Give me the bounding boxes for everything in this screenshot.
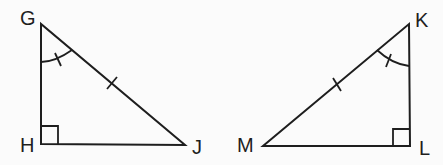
right-angle-marker-l <box>393 129 410 146</box>
vertex-label-l: L <box>419 138 430 158</box>
side-tick-mk <box>333 78 341 91</box>
angle-arc-k <box>377 50 409 66</box>
congruent-triangles-diagram: G H J K L M <box>0 0 443 165</box>
vertex-label-m: M <box>237 135 254 155</box>
triangle-ghj <box>41 24 185 145</box>
right-angle-marker-h <box>41 126 58 144</box>
vertex-label-h: H <box>20 135 34 155</box>
vertex-label-g: G <box>20 8 36 28</box>
diagram-graphics <box>0 0 443 165</box>
vertex-label-j: J <box>192 137 202 157</box>
vertex-label-k: K <box>415 10 428 30</box>
